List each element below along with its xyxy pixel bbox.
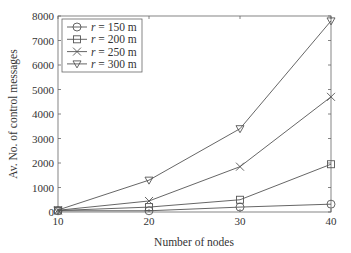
legend-label: r = 200 m (91, 33, 137, 45)
y-tick-label: 7000 (32, 35, 55, 47)
legend-label: r = 150 m (91, 21, 137, 33)
y-axis-label: Av. No. of control messages (7, 49, 20, 179)
legend: r = 150 mr = 200 mr = 250 mr = 300 m (62, 19, 142, 72)
series-r-150-m (54, 200, 335, 215)
y-tick-label: 8000 (32, 10, 55, 22)
series-r-250-m (54, 93, 335, 214)
y-tick-label: 1000 (32, 182, 55, 194)
x-tick-label: 40 (326, 215, 338, 227)
y-tick-label: 2000 (32, 157, 55, 169)
y-tick-label: 5000 (32, 84, 55, 96)
x-tick-label: 20 (144, 215, 156, 227)
y-tick-label: 6000 (32, 59, 55, 71)
x-tick-label: 30 (235, 215, 247, 227)
x-axis-label: Number of nodes (154, 236, 234, 248)
legend-label: r = 250 m (91, 46, 137, 58)
y-tick-label: 4000 (32, 108, 55, 120)
legend-item: r = 150 m (67, 21, 137, 33)
x-tick-label: 10 (53, 215, 65, 227)
y-tick-label: 3000 (32, 133, 55, 145)
line-chart: 010002000300040005000600070008000 102030… (0, 0, 351, 253)
legend-label: r = 300 m (91, 58, 137, 70)
